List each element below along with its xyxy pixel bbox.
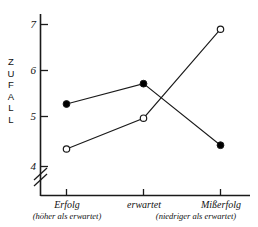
series-line-open — [67, 29, 221, 149]
data-point-open-Mißerfolg[interactable] — [217, 26, 223, 32]
y-tick-label-7: 7 — [22, 19, 36, 30]
y-tick-label-4: 4 — [22, 161, 36, 172]
y-axis-title: Z U F A L L — [2, 56, 20, 125]
data-point-open-Erfolg[interactable] — [63, 146, 69, 152]
series-layer — [63, 26, 224, 152]
x-category-sublabel-misserfolg: (niedriger als erwartet) — [136, 211, 256, 221]
chart-figure: 7 6 5 4 Z U F A L L Erfolg (höher als er… — [0, 0, 258, 227]
data-point-filled-Erfolg[interactable] — [63, 101, 70, 108]
y-axis-title-letter-z: Z — [2, 56, 20, 68]
y-tick-label-5: 5 — [22, 111, 36, 122]
y-axis-title-letter-f: F — [2, 79, 20, 91]
y-axis-title-letter-l1: L — [2, 102, 20, 114]
x-category-label-erfolg: Erfolg — [36, 199, 98, 210]
y-tick-label-6: 6 — [22, 65, 36, 76]
y-axis-title-letter-u: U — [2, 68, 20, 80]
y-axis-title-letter-a: A — [2, 91, 20, 103]
y-axis-ticks — [41, 25, 49, 167]
x-category-label-misserfolg: Mißerfolg — [188, 199, 254, 210]
x-category-label-erwartet: erwartet — [113, 199, 175, 210]
x-category-sublabel-erfolg: (höher als erwartet) — [12, 211, 122, 221]
line-chart-plot — [0, 0, 258, 227]
y-axis-title-letter-l2: L — [2, 114, 20, 126]
data-point-filled-erwartet[interactable] — [140, 80, 147, 87]
data-point-filled-Mißerfolg[interactable] — [217, 142, 224, 149]
data-point-open-erwartet[interactable] — [140, 115, 146, 121]
